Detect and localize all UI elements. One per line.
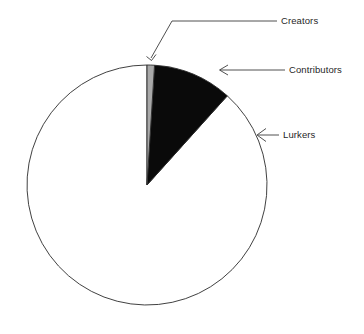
- pie-chart-figure: Creators Contributors Lurkers: [0, 0, 364, 334]
- lurkers-label: Lurkers: [283, 129, 316, 140]
- creators-leader-line: [151, 21, 277, 58]
- contributors-label: Contributors: [289, 64, 342, 75]
- creators-label: Creators: [281, 15, 318, 26]
- pie-chart-svg: Creators Contributors Lurkers: [0, 0, 364, 334]
